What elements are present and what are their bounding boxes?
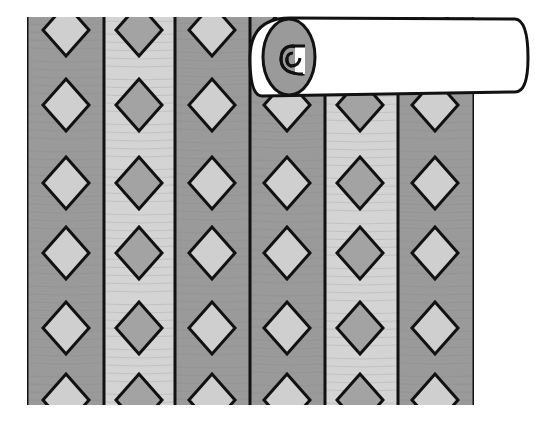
wallpaper-illustration <box>0 0 535 426</box>
roll-end <box>263 19 315 95</box>
